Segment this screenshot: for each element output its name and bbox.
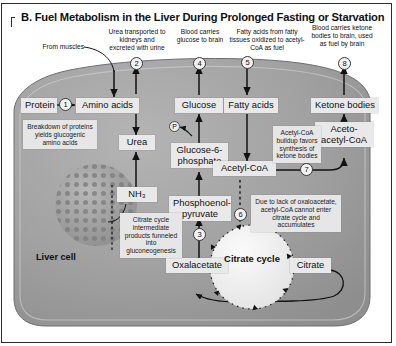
- note-protein-breakdown: Breakdown of proteins yields glucogenic …: [23, 120, 97, 149]
- node-ketone-bodies[interactable]: Ketone bodies: [311, 98, 378, 113]
- node-amino-acids[interactable]: Amino acids: [76, 98, 139, 113]
- node-acetyl-coa[interactable]: Acetyl-CoA: [213, 161, 276, 176]
- annotation-fatty-acid-source: Fatty acids from fatty tissues oxidized …: [228, 28, 306, 51]
- marker-3[interactable]: 3: [193, 228, 206, 241]
- node-protein[interactable]: Protein: [21, 98, 57, 113]
- marker-1[interactable]: 1: [59, 98, 72, 111]
- page-title: B. Fuel Metabolism in the Liver During P…: [17, 11, 388, 23]
- note-acetylcoa-buildup: Acetyl-CoA buildup favors synthesis of k…: [273, 126, 321, 163]
- annotation-ketone-to-brain: Blood carries ketone bodies to brain, us…: [311, 24, 373, 47]
- marker-6[interactable]: 6: [234, 208, 247, 221]
- phosphate-icon: P: [169, 121, 180, 132]
- note-oxaloacetate-lack: Due to lack of oxaloacetate, acetyl-CoA …: [251, 195, 341, 232]
- node-ammonia[interactable]: NH₃: [117, 187, 157, 202]
- node-acetoacetyl-coa[interactable]: Aceto-acetyl-CoA: [315, 122, 373, 147]
- node-fatty-acids[interactable]: Fatty acids: [224, 98, 278, 113]
- node-oxaloacetate[interactable]: Oxalacetate: [166, 258, 228, 273]
- note-citrate-intermediates: Citrate cycle intermediate products funn…: [120, 213, 182, 258]
- marker-7[interactable]: 7: [300, 163, 313, 176]
- annotation-urea-transport: Urea transported to kidneys and excreted…: [107, 28, 167, 51]
- marker-5[interactable]: 5: [241, 56, 254, 69]
- marker-8[interactable]: 8: [338, 57, 351, 70]
- diagram-canvas: [0, 0, 396, 346]
- node-urea[interactable]: Urea: [119, 135, 155, 150]
- annotation-from-muscles: From muscles: [24, 43, 84, 51]
- diagram-root: B. Fuel Metabolism in the Liver During P…: [0, 0, 396, 346]
- citrate-cycle-label: Citrate cycle: [221, 253, 283, 264]
- marker-2[interactable]: 2: [130, 57, 143, 70]
- annotation-glucose-to-brain: Blood carries glucose to brain: [174, 28, 226, 44]
- node-glucose[interactable]: Glucose: [175, 98, 223, 113]
- liver-cell-label: Liver cell: [36, 252, 76, 262]
- marker-4[interactable]: 4: [193, 57, 206, 70]
- node-citrate[interactable]: Citrate: [290, 258, 331, 273]
